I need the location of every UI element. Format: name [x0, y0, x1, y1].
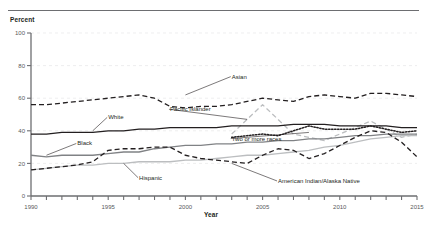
x-tick-label: 2010	[333, 204, 347, 210]
series-annotation-label: Hispanic	[139, 175, 162, 181]
x-tick-group: 199019952000200520102015	[24, 196, 424, 210]
x-tick-label: 1990	[24, 204, 38, 210]
series-line	[31, 131, 417, 170]
axes-group	[31, 33, 417, 196]
line-chart-plot: 020406080100 199019952000200520102015 As…	[0, 0, 427, 229]
chart-figure: Percent Year 020406080100 19901995200020…	[0, 0, 427, 229]
series-annotation-label: Two or more races	[232, 136, 282, 142]
x-tick-label: 2000	[179, 204, 193, 210]
series-line	[31, 124, 417, 134]
series-annotation-label: Pacific Islander	[170, 106, 211, 112]
series-group	[31, 93, 417, 170]
y-tick-label: 60	[18, 95, 25, 101]
y-tick-label: 20	[18, 161, 25, 167]
annotation-labels-group: AsianPacific IslanderWhiteTwo or more ra…	[77, 74, 360, 184]
y-tick-label: 80	[18, 63, 25, 69]
series-annotation-label: Black	[77, 140, 93, 146]
y-tick-group: 020406080100	[15, 30, 31, 199]
series-annotation-label: American Indian/Alaska Native	[278, 178, 360, 184]
series-annotation-label: Asian	[232, 74, 247, 80]
x-tick-label: 2015	[410, 204, 424, 210]
series-annotation-label: White	[108, 114, 124, 120]
y-tick-label: 100	[15, 30, 26, 36]
series-line	[31, 93, 417, 108]
x-tick-label: 2005	[256, 204, 270, 210]
y-tick-label: 0	[22, 193, 26, 199]
y-tick-label: 40	[18, 128, 25, 134]
x-tick-label: 1995	[102, 204, 116, 210]
